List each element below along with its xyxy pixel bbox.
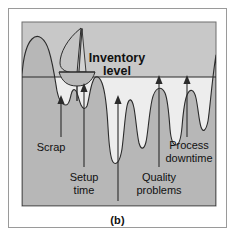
label-quality-problems-line2: problems	[136, 184, 182, 196]
label-process-downtime-line1: Process	[169, 139, 209, 151]
inventory-level-line1: Inventory	[89, 51, 145, 65]
label-setup-time-line1: Setup	[70, 171, 99, 183]
figure-root: Inventory level Scrap Setup time Late de…	[0, 0, 235, 250]
inventory-level-line2: level	[103, 64, 131, 78]
inventory-rocks-diagram: Inventory level Scrap Setup time Late de…	[9, 9, 226, 227]
label-setup-time-line2: time	[74, 184, 95, 196]
label-scrap: Scrap	[37, 141, 66, 153]
label-quality-problems-line1: Quality	[142, 171, 177, 183]
label-process-downtime-line2: downtime	[165, 152, 212, 164]
figure-caption: (b)	[9, 214, 226, 226]
figure-frame: Inventory level Scrap Setup time Late de…	[8, 8, 227, 228]
